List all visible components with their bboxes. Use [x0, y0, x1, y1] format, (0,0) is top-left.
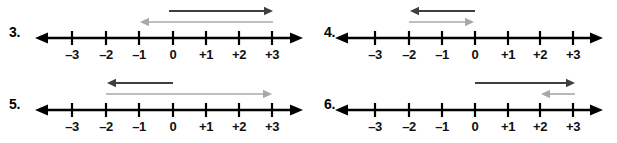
tick-label: +2 [533, 119, 547, 134]
axis-arrowhead-right [590, 105, 603, 116]
tick-label: 0 [170, 119, 177, 134]
tick-label: 0 [170, 47, 177, 62]
first-vector-head [410, 7, 419, 15]
worksheet: 3.–3–2–10+1+2+34.–3–2–10+1+2+35.–3–2–10+… [0, 0, 617, 143]
tick-label: +3 [265, 119, 279, 134]
tick-label: –1 [435, 119, 449, 134]
tick-label: 0 [472, 47, 479, 62]
axis-arrowhead-left [335, 33, 348, 44]
tick-label: +1 [199, 47, 213, 62]
second-vector-head [263, 90, 272, 98]
problem-6: 6.–3–2–10+1+2+3 [310, 72, 617, 143]
tick-label: –2 [99, 47, 113, 62]
axis-arrowhead-right [290, 105, 303, 116]
first-vector-head [264, 7, 273, 15]
second-vector-head [140, 18, 149, 26]
number-line-diagram [0, 72, 307, 143]
axis-arrowhead-left [35, 105, 48, 116]
tick-label: +1 [501, 47, 515, 62]
tick-label: 0 [472, 119, 479, 134]
axis-arrowhead-right [290, 33, 303, 44]
tick-label: –1 [132, 47, 146, 62]
problem-5: 5.–3–2–10+1+2+3 [0, 72, 307, 143]
problem-3: 3.–3–2–10+1+2+3 [0, 0, 307, 71]
tick-label: –3 [65, 47, 79, 62]
tick-label: –3 [65, 119, 79, 134]
tick-label: –2 [99, 119, 113, 134]
axis-arrowhead-left [335, 105, 348, 116]
axis-arrowhead-right [590, 33, 603, 44]
first-vector-head [566, 79, 575, 87]
tick-label: +1 [501, 119, 515, 134]
second-vector-head [541, 90, 550, 98]
tick-label: +3 [566, 47, 580, 62]
tick-label: –3 [368, 47, 382, 62]
tick-label: +3 [566, 119, 580, 134]
second-vector-head [465, 18, 474, 26]
axis-arrowhead-left [35, 33, 48, 44]
tick-label: +2 [232, 119, 246, 134]
problem-4: 4.–3–2–10+1+2+3 [310, 0, 617, 71]
number-line-diagram [0, 0, 307, 71]
first-vector-head [107, 79, 116, 87]
tick-label: –3 [368, 119, 382, 134]
tick-label: +1 [199, 119, 213, 134]
tick-label: +2 [533, 47, 547, 62]
tick-label: –2 [402, 119, 416, 134]
tick-label: –2 [402, 47, 416, 62]
tick-label: +3 [265, 47, 279, 62]
tick-label: –1 [435, 47, 449, 62]
tick-label: +2 [232, 47, 246, 62]
tick-label: –1 [132, 119, 146, 134]
